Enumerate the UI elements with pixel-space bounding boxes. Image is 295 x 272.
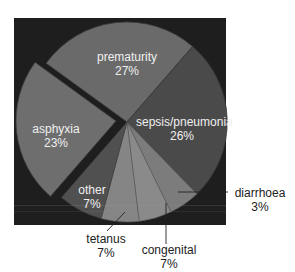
label-name: asphyxia: [26, 122, 86, 136]
label-name: congenital: [136, 243, 202, 257]
label-other: other 7%: [72, 183, 112, 211]
label-pct: 23%: [26, 136, 86, 150]
label-pct: 26%: [136, 129, 228, 143]
label-diarrhoea: diarrhoea 3%: [228, 186, 292, 214]
label-pct: 7%: [136, 257, 202, 271]
scanline-artifact: [14, 205, 226, 206]
label-name: diarrhoea: [228, 186, 292, 200]
label-name: other: [72, 183, 112, 197]
label-congenital: congenital 7%: [136, 243, 202, 271]
label-pct: 7%: [78, 246, 134, 260]
label-asphyxia: asphyxia 23%: [26, 122, 86, 150]
label-tetanus: tetanus 7%: [78, 232, 134, 260]
label-name: sepsis/pneumonia: [136, 115, 228, 129]
label-pct: 7%: [72, 197, 112, 211]
label-name: prematurity: [94, 50, 160, 64]
scanline-artifact: [14, 211, 226, 212]
label-name: tetanus: [78, 232, 134, 246]
label-prematurity: prematurity 27%: [94, 50, 160, 78]
label-pct: 3%: [228, 200, 292, 214]
label-pct: 27%: [94, 64, 160, 78]
label-sepsis-pneumonia: sepsis/pneumonia 26%: [136, 115, 228, 143]
